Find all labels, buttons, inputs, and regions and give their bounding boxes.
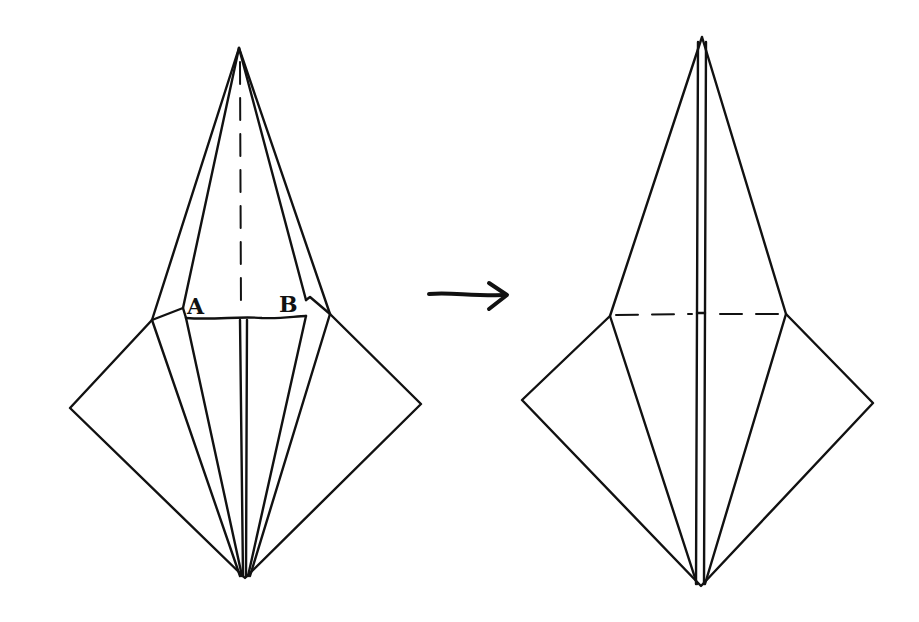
- right-arrow-icon: [429, 283, 507, 309]
- horizontal-fold-dashed-line: [616, 314, 692, 315]
- left-lower-line-1: [152, 320, 240, 576]
- right-lower-line-left: [610, 316, 697, 584]
- vertical-fold-dashed-line: [240, 62, 241, 312]
- right-lower-line-right: [705, 314, 786, 584]
- left-center-line-2: [246, 320, 247, 576]
- left-inner-flap-right: [239, 48, 306, 300]
- origami-diagram: A B: [0, 0, 919, 622]
- figure-before: A B: [70, 48, 421, 578]
- left-lower-line-3: [248, 316, 306, 576]
- figure-after: [522, 37, 873, 586]
- label-a: A: [186, 293, 205, 319]
- left-lower-line-4: [250, 314, 330, 576]
- left-connector-a: [152, 308, 186, 320]
- left-inner-flap-left: [183, 48, 239, 308]
- left-center-line-1: [240, 320, 243, 576]
- label-b: B: [279, 291, 298, 317]
